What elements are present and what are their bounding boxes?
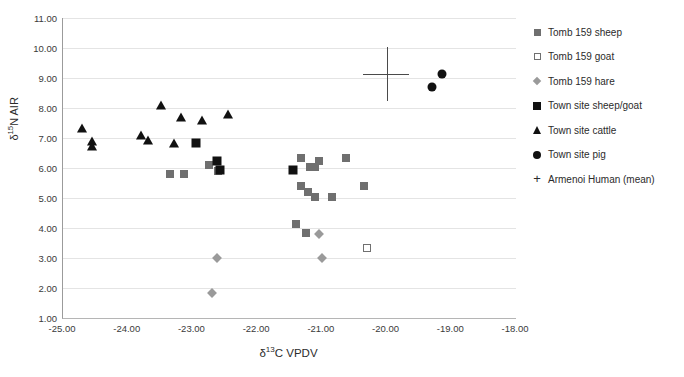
- legend-item-town-site-cattle[interactable]: Town site cattle: [529, 118, 681, 143]
- gridline: [63, 258, 516, 259]
- open-square-icon: [529, 53, 545, 60]
- data-point-town-site-sheep-goat: [191, 138, 200, 147]
- x-axis-tick-label: -24.00: [113, 323, 140, 334]
- y-axis-tick-label: 7.00: [39, 133, 58, 144]
- data-point-tomb-159-sheep: [302, 229, 310, 237]
- filled-square-grey-icon-glyph: [534, 29, 541, 36]
- data-point-town-site-cattle: [176, 113, 186, 122]
- gridline: [63, 78, 516, 79]
- filled-square-grey-icon: [529, 29, 545, 36]
- open-square-icon-glyph: [534, 53, 541, 60]
- legend-item-label: Tomb 159 sheep: [545, 27, 622, 38]
- data-point-tomb-159-sheep: [292, 220, 300, 228]
- data-point-town-site-cattle: [77, 123, 87, 132]
- legend-item-label: Town site pig: [545, 149, 606, 160]
- x-axis-tick-label: -20.00: [372, 323, 399, 334]
- y-axis-tick-label: 4.00: [39, 223, 58, 234]
- legend-item-tomb-159-hare[interactable]: Tomb 159 hare: [529, 69, 681, 94]
- circle-black-icon: [529, 151, 545, 159]
- y-axis-tick-label: 5.00: [39, 193, 58, 204]
- data-point-tomb-159-goat: [363, 244, 371, 252]
- data-point-tomb-159-sheep: [311, 193, 319, 201]
- x-axis-title-superscript: 13: [266, 345, 275, 354]
- data-point-town-site-cattle: [223, 110, 233, 119]
- filled-square-black-icon: [529, 102, 545, 110]
- data-point-town-site-pig: [437, 69, 446, 78]
- legend-item-label: Armenoi Human (mean): [545, 174, 655, 185]
- circle-black-icon-glyph: [533, 151, 541, 159]
- legend-item-town-site-sheep-goat[interactable]: Town site sheep/goat: [529, 94, 681, 119]
- data-point-tomb-159-hare: [207, 288, 217, 298]
- plot-area: [62, 18, 516, 319]
- triangle-black-icon: [529, 126, 545, 134]
- data-point-town-site-cattle: [143, 135, 153, 144]
- data-point-town-site-cattle: [87, 141, 97, 150]
- legend-item-label: Town site sheep/goat: [545, 100, 642, 111]
- data-point-town-site-sheep-goat: [213, 156, 222, 165]
- x-axis-tick-label: -21.00: [307, 323, 334, 334]
- data-point-town-site-pig: [427, 83, 436, 92]
- data-point-tomb-159-sheep: [315, 157, 323, 165]
- scatter-plot-figure: δ15N AIR 1.002.003.004.005.006.007.008.0…: [0, 0, 684, 377]
- y-axis-tick-label: 1.00: [39, 313, 58, 324]
- legend-item-tomb-159-goat[interactable]: Tomb 159 goat: [529, 45, 681, 70]
- plus-icon: +: [529, 174, 545, 184]
- y-axis-tick-labels: 1.002.003.004.005.006.007.008.009.0010.0…: [0, 0, 57, 377]
- data-point-tomb-159-sheep: [328, 193, 336, 201]
- data-point-tomb-159-sheep: [342, 154, 350, 162]
- diamond-grey-icon: [529, 78, 545, 84]
- y-axis-tick-label: 10.00: [33, 43, 57, 54]
- gridline: [63, 228, 516, 229]
- legend: Tomb 159 sheepTomb 159 goatTomb 159 hare…: [529, 20, 681, 192]
- triangle-black-icon-glyph: [533, 126, 541, 134]
- x-axis-tick-label: -22.00: [243, 323, 270, 334]
- x-axis-title-main: C VPDV: [275, 347, 318, 359]
- human-mean-y-errorbar: [387, 47, 388, 101]
- filled-square-black-icon-glyph: [533, 102, 541, 110]
- gridline: [63, 288, 516, 289]
- gridline: [63, 138, 516, 139]
- data-point-town-site-cattle: [169, 138, 179, 147]
- legend-item-tomb-159-sheep[interactable]: Tomb 159 sheep: [529, 20, 681, 45]
- data-point-town-site-sheep-goat: [288, 165, 297, 174]
- data-point-tomb-159-hare: [212, 253, 222, 263]
- data-point-tomb-159-sheep: [360, 182, 368, 190]
- diamond-grey-icon-glyph: [533, 77, 541, 85]
- data-point-tomb-159-hare: [314, 229, 324, 239]
- legend-item-label: Town site cattle: [545, 125, 616, 136]
- gridline: [63, 48, 516, 49]
- data-point-tomb-159-sheep: [166, 170, 174, 178]
- x-axis-tick-label: -23.00: [178, 323, 205, 334]
- data-point-tomb-159-hare: [317, 253, 327, 263]
- gridline: [63, 198, 516, 199]
- y-axis-tick-label: 3.00: [39, 253, 58, 264]
- data-point-town-site-sheep-goat: [215, 165, 224, 174]
- x-axis-tick-label: -25.00: [49, 323, 76, 334]
- y-axis-tick-label: 11.00: [34, 13, 57, 24]
- x-axis-tick-label: -18.00: [502, 323, 529, 334]
- y-axis-tick-label: 9.00: [39, 73, 58, 84]
- data-point-town-site-cattle: [156, 101, 166, 110]
- x-axis-tick-label: -19.00: [437, 323, 464, 334]
- x-axis-title: δ13C VPDV: [62, 345, 515, 359]
- y-axis-tick-label: 6.00: [39, 163, 58, 174]
- data-point-tomb-159-sheep: [180, 170, 188, 178]
- gridline: [63, 108, 516, 109]
- legend-item-town-site-pig[interactable]: Town site pig: [529, 143, 681, 168]
- legend-item-armenoi-human-mean[interactable]: +Armenoi Human (mean): [529, 167, 681, 192]
- y-axis-tick-label: 8.00: [39, 103, 58, 114]
- y-axis-tick-label: 2.00: [39, 283, 58, 294]
- data-point-town-site-cattle: [197, 116, 207, 125]
- legend-item-label: Tomb 159 goat: [545, 51, 614, 62]
- gridline: [63, 18, 516, 19]
- data-point-tomb-159-sheep: [297, 154, 305, 162]
- legend-item-label: Tomb 159 hare: [545, 76, 615, 87]
